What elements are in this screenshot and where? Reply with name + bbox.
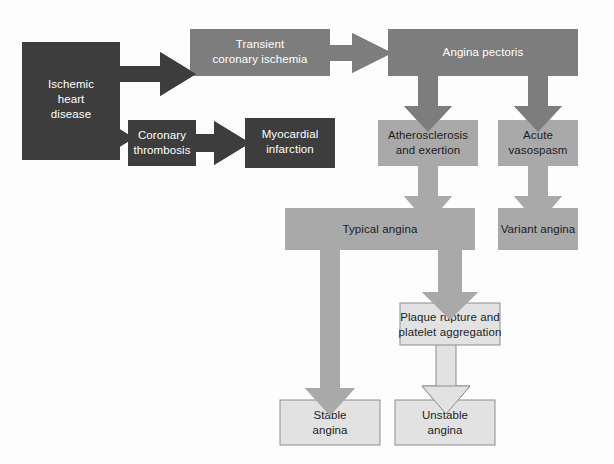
flowchart-canvas: Ischemic heart disease Transient coronar… (0, 0, 614, 464)
node-label-plaque-rupture-line2: platelet aggregation (398, 326, 501, 338)
node-label-coronary-thrombosis-line1: Coronary (138, 129, 186, 141)
node-label-ischemic-heart-disease-line3: disease (51, 108, 91, 120)
node-label-stable-angina-line2: angina (312, 424, 348, 436)
node-label-coronary-thrombosis-line2: thrombosis (133, 144, 190, 156)
node-angina-pectoris[interactable]: Angina pectoris (388, 29, 578, 76)
node-label-ischemic-heart-disease-line2: heart (58, 93, 85, 105)
node-label-myocardial-infarction-line2: infarction (266, 143, 314, 155)
node-transient-coronary-ischemia[interactable]: Transient coronary ischemia (190, 29, 330, 76)
node-label-atherosclerosis-line2: and exertion (396, 144, 461, 156)
node-label-ischemic-heart-disease-line1: Ischemic (48, 78, 94, 90)
node-label-angina-pectoris: Angina pectoris (443, 46, 524, 58)
node-label-transient-coronary-ischemia-line1: Transient (236, 38, 285, 50)
node-label-unstable-angina-line2: angina (427, 424, 463, 436)
node-label-variant-angina: Variant angina (501, 223, 576, 235)
node-coronary-thrombosis[interactable]: Coronary thrombosis (128, 120, 196, 166)
node-label-acute-vasospasm-line2: vasospasm (508, 144, 567, 156)
node-label-transient-coronary-ischemia-line2: coronary ischemia (212, 53, 308, 65)
flowchart-diagram: Ischemic heart disease Transient coronar… (0, 0, 614, 464)
node-typical-angina[interactable]: Typical angina (285, 208, 475, 250)
node-label-typical-angina: Typical angina (343, 223, 418, 235)
node-myocardial-infarction[interactable]: Myocardial infarction (245, 118, 335, 168)
node-label-myocardial-infarction-line1: Myocardial (262, 128, 319, 140)
